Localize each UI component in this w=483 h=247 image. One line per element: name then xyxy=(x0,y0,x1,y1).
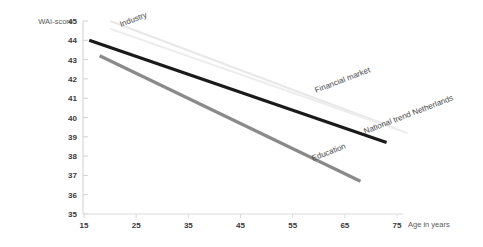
y-axis-tick-label: 40 xyxy=(68,114,77,123)
x-axis-tick-label: 25 xyxy=(132,221,141,230)
wai-score-chart: 3536373839404142434445 15253545556575 In… xyxy=(0,0,483,247)
y-axis-tick-label: 38 xyxy=(68,152,77,161)
x-axis-tick-label: 35 xyxy=(184,221,193,230)
y-axis-title: WAI-score xyxy=(38,17,73,26)
y-axis-tick-label: 37 xyxy=(68,171,77,180)
x-axis-tick-label: 55 xyxy=(288,221,297,230)
x-axis-tick-label: 75 xyxy=(393,221,402,230)
y-axis-tick-label: 44 xyxy=(68,36,77,45)
x-axis-tick-label: 65 xyxy=(340,221,349,230)
y-axis-tick-label: 39 xyxy=(68,133,77,142)
y-axis-tick-label: 35 xyxy=(68,210,77,219)
y-axis-tick-label: 42 xyxy=(68,75,77,84)
y-axis-tick-label: 43 xyxy=(68,56,77,65)
x-axis-title: Age in years xyxy=(408,220,450,229)
y-axis-tick-label: 41 xyxy=(68,94,77,103)
x-axis-tick-label: 15 xyxy=(80,221,89,230)
x-axis-tick-label: 45 xyxy=(236,221,245,230)
chart-canvas: 3536373839404142434445 15253545556575 In… xyxy=(0,0,483,247)
y-axis-tick-label: 36 xyxy=(68,191,77,200)
